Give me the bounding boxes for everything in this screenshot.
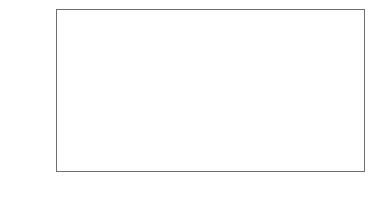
y-axis-title bbox=[2, 0, 18, 181]
plot-svg bbox=[57, 10, 364, 171]
chart-figure bbox=[0, 0, 375, 219]
plot-panel bbox=[56, 9, 365, 172]
